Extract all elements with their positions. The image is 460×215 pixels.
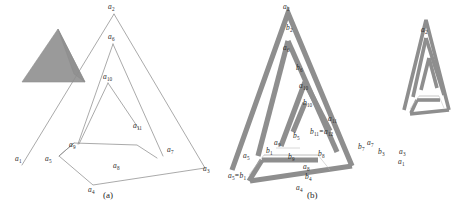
label-b-a1: a1: [398, 158, 404, 166]
label-b-a10: a10: [299, 82, 308, 90]
label-b-a2: a2: [283, 3, 289, 11]
label-b-b1: b1: [266, 147, 272, 155]
label-b-a11: a11: [328, 115, 337, 123]
label-a4: a4: [88, 186, 94, 194]
label-a5: a5: [45, 155, 51, 163]
label-b-a7: a7: [367, 139, 373, 147]
label-b-a9: a9: [274, 139, 280, 147]
label-a1: a1: [15, 155, 21, 163]
label-b-b11-eq-a12: b11=a12: [310, 128, 333, 136]
label-a3: a3: [203, 165, 209, 173]
label-b-a4: a4: [296, 184, 302, 192]
label-b-b5: b5: [293, 132, 299, 140]
label-a7: a7: [167, 146, 173, 154]
label-a8: a8: [113, 162, 119, 170]
label-b-a8: a8: [303, 163, 309, 171]
panel-b-graphic: [232, 13, 449, 181]
label-a10: a10: [103, 73, 112, 81]
label-a2: a2: [108, 3, 114, 11]
label-b-a3: a3: [399, 148, 405, 156]
label-a11: a11: [133, 122, 142, 130]
label-b-b8: b8: [318, 150, 324, 158]
figure-root: a1 a2 a3 a4 a5 a6 a7 a8 a9 a10 a11 (a) a…: [0, 0, 460, 215]
label-b-b6: b6: [296, 64, 302, 72]
label-a6: a6: [108, 33, 114, 41]
label-b-a5-eq-b1: a5=b1: [228, 172, 246, 180]
label-b-b3: b3: [378, 148, 384, 156]
solid-triangle-inset: [22, 29, 85, 82]
label-a9: a9: [69, 141, 75, 149]
label-b-inset-a2: a2: [421, 26, 427, 34]
label-b-b7: b7: [358, 143, 364, 151]
figure-vector: [0, 0, 460, 215]
panel-b-caption: (b): [307, 190, 318, 200]
label-b-a5: a5: [243, 152, 249, 160]
panel-a-caption: (a): [103, 190, 113, 200]
label-b-b4: b4: [305, 173, 311, 181]
label-b-a6: a6: [283, 44, 289, 52]
label-b-b9: b9: [288, 153, 294, 161]
label-b-b2: b2: [286, 24, 292, 32]
label-b-b10: b10: [303, 99, 312, 107]
